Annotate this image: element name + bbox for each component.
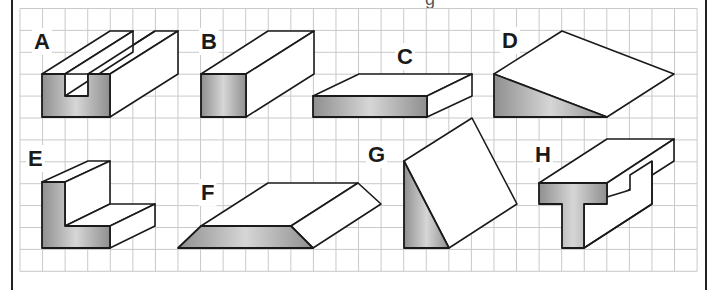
- label-h: H: [535, 142, 551, 167]
- label-g: G: [368, 142, 385, 167]
- label-e: E: [28, 146, 43, 171]
- shape-c-flat-slab: [313, 74, 472, 117]
- label-b: B: [201, 29, 217, 54]
- isometric-shapes-figure: g: [0, 0, 712, 290]
- title-fragment: g: [425, 0, 435, 9]
- label-a: A: [34, 29, 50, 54]
- shape-d-wedge: [494, 31, 674, 117]
- shape-a-u-channel: [42, 31, 178, 117]
- label-d: D: [502, 28, 518, 53]
- shape-g-triangular-prism: [404, 118, 517, 248]
- label-f: F: [201, 180, 214, 205]
- shape-e-l-prism: [42, 161, 155, 248]
- label-c: C: [397, 44, 413, 69]
- shape-h-t-prism: [539, 139, 674, 248]
